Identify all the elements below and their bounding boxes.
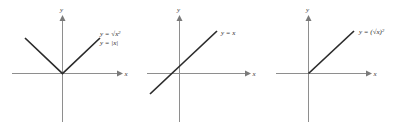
x-axis-label: x bbox=[373, 70, 378, 78]
equation-label-sqrt-x-squared: y = √x2 bbox=[99, 29, 121, 38]
equation-label-sqrt-x-squared-paren: y = (√x)2 bbox=[358, 28, 385, 37]
x-axis-arrow-icon bbox=[245, 71, 251, 77]
panel-identity-line: x y y = x bbox=[135, 0, 270, 132]
panel-sqrt-squared-ray: x y y = (√x)2 bbox=[269, 0, 404, 132]
y-axis-arrow-icon bbox=[60, 15, 66, 21]
x-axis-label: x bbox=[124, 70, 129, 78]
identity-line-curve bbox=[150, 31, 217, 94]
sqrt-squared-ray-curve bbox=[309, 31, 355, 74]
x-axis-arrow-icon bbox=[117, 71, 123, 77]
x-axis-arrow-icon bbox=[366, 71, 372, 77]
panel-absolute-value: x y y = √x2 y = |x| bbox=[0, 0, 135, 132]
y-axis-label: y bbox=[59, 6, 64, 14]
y-axis-label: y bbox=[176, 6, 181, 14]
x-axis-label: x bbox=[252, 70, 257, 78]
equation-label-y-equals-x: y = x bbox=[220, 29, 236, 37]
y-axis-arrow-icon bbox=[306, 15, 312, 21]
y-axis-label: y bbox=[305, 6, 310, 14]
equation-label-abs-x: y = |x| bbox=[99, 39, 118, 47]
graph-figure: x y y = √x2 y = |x| x y y = x bbox=[0, 0, 404, 132]
y-axis-arrow-icon bbox=[177, 15, 183, 21]
